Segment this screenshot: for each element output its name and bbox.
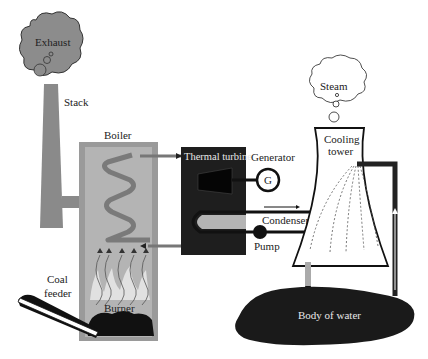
steam-label: Steam [320, 80, 348, 92]
coal-feeder-label-1: Coal [47, 273, 68, 285]
boiler-label: Boiler [104, 129, 132, 141]
pump [253, 225, 267, 239]
body-of-water-label: Body of water [298, 309, 361, 321]
condenser-inner [197, 215, 246, 229]
condenser-label: Condenser [262, 214, 309, 226]
generator-label: Generator [251, 151, 295, 163]
thermal-turbine-label: Thermal turbine [184, 151, 252, 162]
generator-symbol: G [264, 174, 272, 186]
power-plant-diagram: Exhaust Stack Boiler Burner Coal feeder [0, 0, 428, 359]
exhaust-label: Exhaust [35, 36, 70, 48]
cooling-tower-label-2: tower [328, 145, 353, 157]
stack [40, 84, 63, 228]
cooling-tower-label-1: Cooling [324, 133, 360, 145]
condenser-arrowhead [296, 205, 300, 209]
burner-label: Burner [104, 302, 135, 314]
thermal-turbine [181, 147, 246, 255]
coal-feeder-label-2: feeder [44, 287, 72, 299]
pump-label: Pump [254, 240, 280, 252]
stack-label: Stack [64, 96, 89, 108]
